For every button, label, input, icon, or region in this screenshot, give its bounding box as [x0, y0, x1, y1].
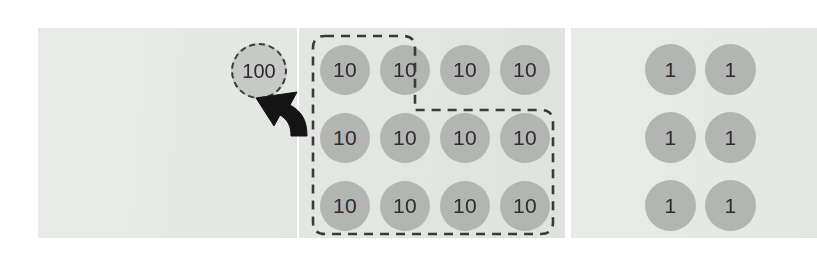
ones-disc-label: 1 [665, 58, 677, 82]
ones-disc[interactable]: 1 [645, 180, 696, 231]
place-value-diagram: 100 10 10 10 10 10 10 10 10 10 10 10 10 … [0, 0, 817, 257]
ones-disc-label: 1 [725, 194, 737, 218]
selection-outline-path [313, 36, 553, 234]
regroup-arrow-shape [256, 92, 307, 136]
ones-disc[interactable]: 1 [705, 180, 756, 231]
ones-disc[interactable]: 1 [645, 44, 696, 95]
ones-disc[interactable]: 1 [705, 44, 756, 95]
ones-disc-label: 1 [725, 58, 737, 82]
ones-disc[interactable]: 1 [705, 112, 756, 163]
regroup-arrow [250, 78, 325, 140]
ones-disc-label: 1 [725, 126, 737, 150]
ones-disc-label: 1 [665, 126, 677, 150]
ones-disc[interactable]: 1 [645, 112, 696, 163]
ones-disc-label: 1 [665, 194, 677, 218]
dashed-selection-region [299, 26, 569, 240]
